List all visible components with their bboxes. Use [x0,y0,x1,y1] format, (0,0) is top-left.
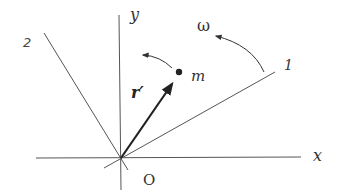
rotating-axis-1 [104,72,275,168]
axis-1-label: 1 [284,57,293,73]
position-vector-label: r′ [131,83,144,102]
mass-point [176,69,182,75]
x-axis-label: x [313,146,322,165]
y-axis-label: y [129,5,140,24]
position-vector-arrow [121,84,172,158]
mass-label: m [191,67,205,85]
rotating-frame-diagram: y x 1 2 O m r′ ω [0,0,347,196]
omega-label: ω [197,16,210,35]
x-axis [36,157,301,158]
origin-label: O [143,171,155,189]
omega-rotation-arc-arrow [216,36,264,72]
axis-2-label: 2 [23,35,31,50]
mass-motion-arc-arrow [143,55,172,68]
y-axis [119,15,121,190]
rotating-axis-2 [44,33,128,170]
